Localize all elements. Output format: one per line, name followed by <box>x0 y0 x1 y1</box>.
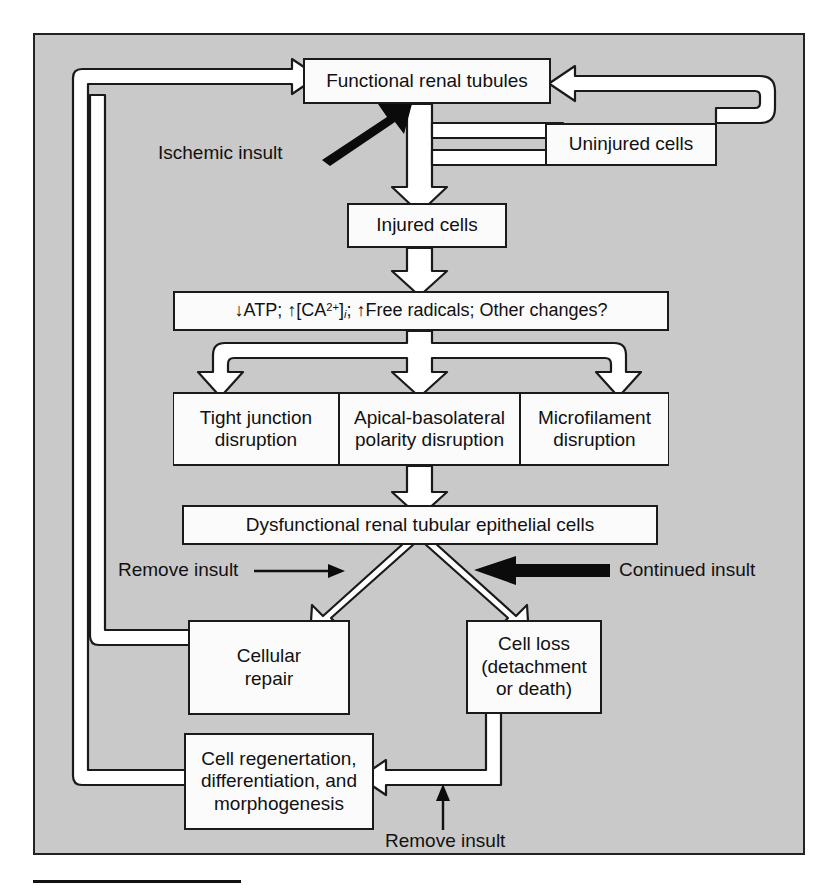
label-remove-insult-lower: Remove insult <box>385 830 505 852</box>
node-microfilament-disruption[interactable]: Microfilament disruption <box>520 392 669 466</box>
node-injured-cells[interactable]: Injured cells <box>347 203 507 248</box>
tight-junction-text: Tight junction disruption <box>200 407 312 452</box>
label-continued-insult: Continued insult <box>619 559 755 581</box>
edge-injured-cells-to-biochem <box>392 248 447 296</box>
label-remove-insult-upper: Remove insult <box>118 559 238 581</box>
edge-cell-loss-to-regeneration <box>360 712 501 795</box>
remove-insult-upper-arrowhead <box>328 564 345 578</box>
biochem-text: ↓ATP; ↑[CA2+]i; ↑Free radicals; Other ch… <box>234 300 607 322</box>
node-dysfunctional-renal-tubular-epithelial-cells[interactable]: Dysfunctional renal tubular epithelial c… <box>182 505 658 545</box>
microfilament-text: Microfilament disruption <box>538 407 651 452</box>
node-cellular-repair[interactable]: Cellular repair <box>188 620 350 715</box>
node-uninjured-cells[interactable]: Uninjured cells <box>545 123 717 166</box>
regeneration-text: Cell regenertation, differentiation, and… <box>201 748 357 815</box>
edge-uninjured-cells-return-rail <box>432 150 563 165</box>
remove-insult-lower-arrowhead <box>436 784 450 801</box>
continued-insult-arrow <box>474 556 610 585</box>
node-biochemical-changes[interactable]: ↓ATP; ↑[CA2+]i; ↑Free radicals; Other ch… <box>173 291 669 331</box>
figure-canvas: .pipe{fill:#ffffff;stroke:#1a1a1a;stroke… <box>0 0 839 892</box>
cell-loss-text: Cell loss (detachment or death) <box>481 633 587 700</box>
apical-basolateral-text: Apical-basolateral polarity disruption <box>354 407 505 452</box>
edge-uninjured-cells-to-functional-tubules <box>549 66 775 123</box>
node-apical-basolateral-polarity-disruption[interactable]: Apical-basolateral polarity disruption <box>339 392 520 466</box>
ischemic-insult-arrow <box>322 100 413 166</box>
node-functional-renal-tubules[interactable]: Functional renal tubules <box>303 58 551 104</box>
caption-rule <box>33 880 241 883</box>
node-cell-regeneration[interactable]: Cell regenertation, differentiation, and… <box>184 733 374 830</box>
edge-biochem-to-disruption-boxes <box>198 331 641 397</box>
cellular-repair-text: Cellular repair <box>237 645 301 690</box>
label-ischemic-insult: Ischemic insult <box>158 142 283 164</box>
edge-functional-tubules-to-uninjured-cells <box>432 123 563 138</box>
node-tight-junction-disruption[interactable]: Tight junction disruption <box>173 392 339 466</box>
node-cell-loss[interactable]: Cell loss (detachment or death) <box>466 620 602 714</box>
